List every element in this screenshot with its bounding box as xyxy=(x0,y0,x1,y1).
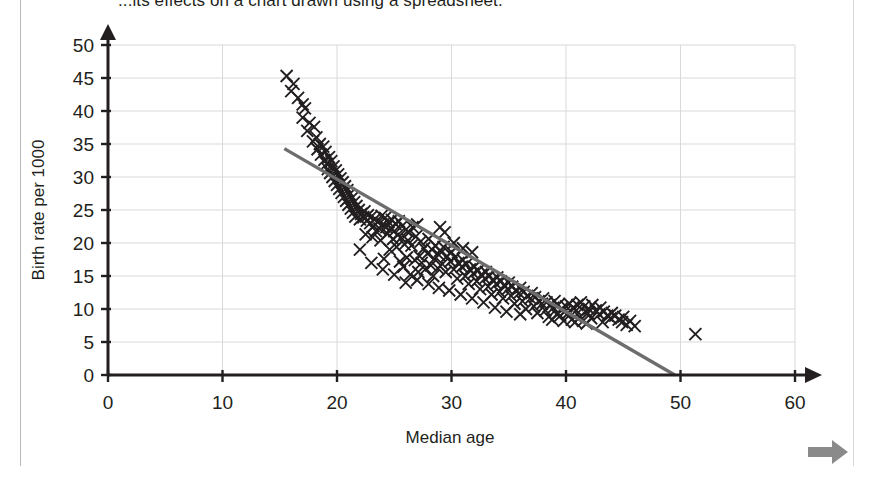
x-tick-label: 0 xyxy=(103,392,114,413)
tick-labels: 051015202530354045500102030405060 xyxy=(73,35,806,413)
y-tick-label: 15 xyxy=(73,266,94,287)
x-axis-title: Median age xyxy=(406,428,495,447)
y-tick-label: 35 xyxy=(73,134,94,155)
x-tick-label: 40 xyxy=(555,392,576,413)
y-tick-label: 45 xyxy=(73,68,94,89)
y-tick-label: 40 xyxy=(73,101,94,122)
x-tick-label: 50 xyxy=(670,392,691,413)
trend-line xyxy=(284,149,674,375)
x-tick-label: 10 xyxy=(212,392,233,413)
gridlines xyxy=(108,45,795,375)
x-tick-label: 30 xyxy=(441,392,462,413)
scatter-chart: 051015202530354045500102030405060 Median… xyxy=(0,0,869,470)
y-tick-label: 5 xyxy=(83,332,94,353)
x-tick-label: 20 xyxy=(326,392,347,413)
y-tick-label: 20 xyxy=(73,233,94,254)
y-axis-title: Birth rate per 1000 xyxy=(29,140,48,281)
y-tick-label: 30 xyxy=(73,167,94,188)
page-root: ...its effects on a chart drawn using a … xyxy=(0,0,869,480)
next-arrow-icon[interactable] xyxy=(806,437,850,467)
y-tick-label: 10 xyxy=(73,299,94,320)
y-tick-label: 0 xyxy=(83,365,94,386)
x-tick-label: 60 xyxy=(784,392,805,413)
y-tick-label: 50 xyxy=(73,35,94,56)
y-tick-label: 25 xyxy=(73,200,94,221)
